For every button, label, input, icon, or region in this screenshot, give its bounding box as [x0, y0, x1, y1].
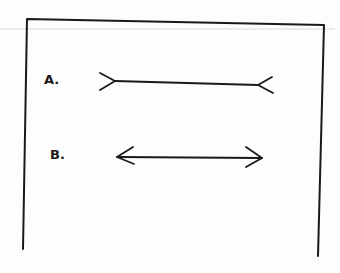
figure-a-right-fin: [258, 77, 273, 93]
frame-border: [23, 19, 324, 256]
figure-b-shaft: [117, 157, 262, 158]
figure-a: [100, 73, 273, 93]
figure-a-label: A.: [44, 72, 59, 87]
figure-b-label: B.: [50, 147, 65, 162]
figure-a-shaft: [115, 81, 258, 85]
diagram-canvas: A. B.: [0, 0, 340, 273]
figure-b-left-arrowhead: [117, 147, 134, 164]
figure-a-left-fin: [100, 73, 115, 90]
diagram-drawing: [0, 0, 340, 273]
figure-b: [117, 147, 262, 167]
figure-b-right-arrowhead: [246, 147, 262, 167]
frame: [23, 19, 324, 256]
